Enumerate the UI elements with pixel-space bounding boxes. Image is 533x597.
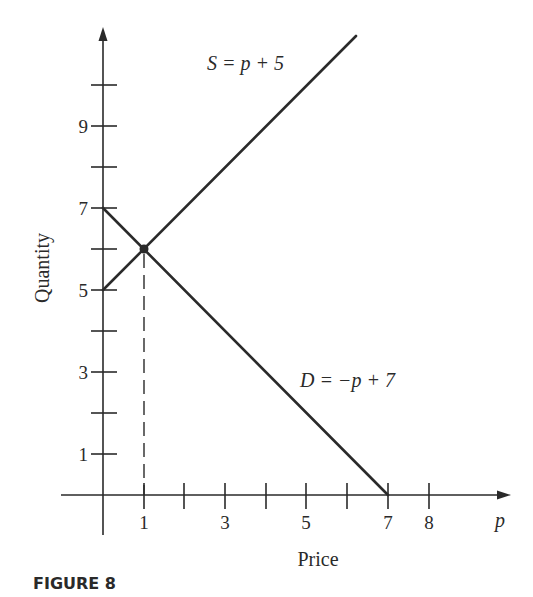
y-tick-label: 3 <box>79 362 89 383</box>
y-axis-title: Quantity <box>31 233 54 303</box>
y-tick-label: 1 <box>79 444 89 465</box>
y-tick-labels: 1 3 5 7 9 <box>79 116 89 465</box>
x-tick-label: 7 <box>383 512 393 533</box>
y-tick-label: 9 <box>79 116 89 137</box>
supply-label: S = p + 5 <box>207 52 284 75</box>
y-tick-label: 5 <box>79 280 89 301</box>
y-ticks <box>91 85 117 454</box>
x-tick-label: 8 <box>424 512 434 533</box>
x-tick-label: 5 <box>301 512 311 533</box>
demand-label: D = −p + 7 <box>299 369 396 392</box>
x-tick-labels: 1 3 5 7 8 <box>139 512 434 533</box>
x-axis-title: Price <box>297 548 338 570</box>
y-axis-arrow-icon <box>99 27 108 41</box>
equilibrium-point <box>140 245 149 254</box>
figure-caption: FIGURE 8 <box>33 574 116 593</box>
y-tick-label: 7 <box>79 198 89 219</box>
x-axis-arrow-icon <box>497 491 511 500</box>
supply-demand-figure: 1 3 5 7 9 1 3 5 7 8 p Price Quantity S =… <box>0 0 533 597</box>
x-tick-label: 1 <box>139 512 149 533</box>
x-variable-label: p <box>493 509 505 532</box>
x-tick-label: 3 <box>220 512 230 533</box>
x-ticks <box>144 483 429 509</box>
